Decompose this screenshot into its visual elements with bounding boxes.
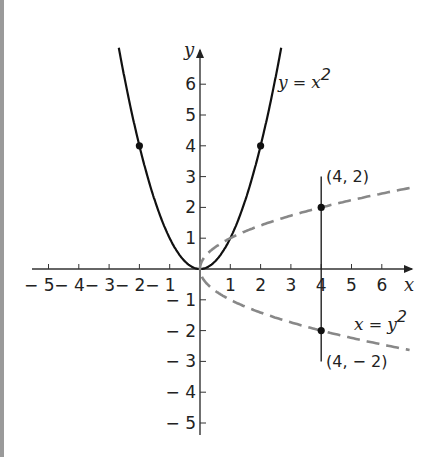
y-tick-label: 2 — [185, 197, 196, 217]
axes — [32, 50, 412, 435]
x-tick-label: − 4 — [54, 275, 84, 295]
y-tick-label: 5 — [185, 105, 196, 125]
y-tick-label: − 3 — [166, 351, 196, 371]
y-tick-label: 6 — [185, 74, 196, 94]
y-axis-label: y — [183, 39, 195, 60]
x-tick-label: 1 — [225, 275, 236, 295]
point-marker — [257, 142, 264, 149]
x-axis-label: x — [404, 274, 414, 295]
x-tick-label: 5 — [346, 275, 357, 295]
y-tick-label: − 1 — [166, 290, 196, 310]
labels: xyy = x2x = y2(4, 2)(4, − 2) — [183, 39, 414, 371]
y-tick-label: − 2 — [166, 321, 196, 341]
x-tick-label: 6 — [376, 275, 387, 295]
label-y-eq-x-squared: y = x2 — [277, 65, 331, 92]
x-tick-label: 2 — [255, 275, 266, 295]
y-tick-label: 3 — [185, 167, 196, 187]
x-tick-label: 3 — [285, 275, 296, 295]
axis-ticks: − 5− 4− 3− 2− 1123456123456− 1− 2− 3− 4−… — [24, 74, 387, 433]
y-tick-label: 1 — [185, 228, 196, 248]
y-tick-label: − 4 — [166, 382, 196, 402]
parabola-chart: − 5− 4− 3− 2− 1123456123456− 1− 2− 3− 4−… — [0, 0, 441, 457]
x-tick-label: − 3 — [85, 275, 115, 295]
y-tick-label: 4 — [185, 136, 196, 156]
point-marker — [318, 327, 325, 334]
x-tick-label: − 5 — [24, 275, 54, 295]
label-point-4-2: (4, 2) — [326, 167, 369, 186]
point-marker — [136, 142, 143, 149]
x-tick-label: − 2 — [115, 275, 145, 295]
label-x-eq-y-squared: x = y2 — [354, 307, 407, 334]
y-tick-label: − 5 — [166, 413, 196, 433]
point-marker — [318, 204, 325, 211]
label-point-4-neg2: (4, − 2) — [326, 352, 388, 371]
